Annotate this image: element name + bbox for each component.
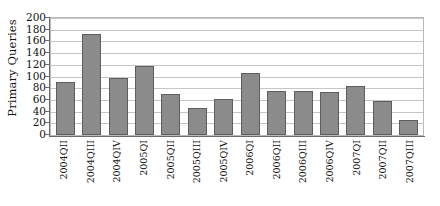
bar[interactable] — [214, 99, 233, 135]
bar-slot — [369, 18, 395, 135]
bar[interactable] — [135, 66, 154, 135]
bar-chart: Primary Queries 020406080100120140160180… — [0, 0, 440, 206]
bar[interactable] — [188, 108, 207, 135]
x-axis-tick-label: 2004QII — [59, 140, 69, 179]
y-axis-line — [49, 17, 50, 137]
bar-slot — [211, 18, 237, 135]
y-axis-title-label: Primary Queries — [5, 19, 19, 116]
bar-slot — [343, 18, 369, 135]
bar-slot — [131, 18, 157, 135]
bar[interactable] — [161, 94, 180, 135]
x-axis-tick-label: 2006QIII — [298, 140, 308, 183]
bar-slot — [237, 18, 263, 135]
x-axis-tick-label: 2006QIV — [325, 140, 335, 183]
bars-container — [51, 18, 423, 135]
bar-slot — [105, 18, 131, 135]
y-axis-tick-label: 20 — [20, 117, 46, 127]
y-axis-tick-label: 80 — [20, 82, 46, 92]
bar[interactable] — [56, 82, 75, 135]
x-tick-slot: 2004QIV — [104, 139, 131, 203]
bar-slot — [78, 18, 104, 135]
y-axis-tickmark — [45, 52, 50, 53]
y-axis-tickmark — [45, 99, 50, 100]
x-tick-slot: 2006QIII — [290, 139, 317, 203]
y-axis-tickmark — [45, 87, 50, 88]
y-axis-tick-label: 140 — [20, 47, 46, 57]
y-axis-tick-label: 0 — [20, 129, 46, 139]
bar-slot — [263, 18, 289, 135]
x-axis-tick-label: 2005QI — [139, 140, 149, 176]
x-tick-slot: 2006QII — [264, 139, 291, 203]
bar-slot — [184, 18, 210, 135]
y-axis-tickmark — [45, 111, 50, 112]
x-axis-tick-labels: 2004QII2004QIII2004QIV2005QI2005QII2005Q… — [50, 139, 424, 203]
y-axis-tick-label: 100 — [20, 71, 46, 81]
bar[interactable] — [320, 92, 339, 135]
bar[interactable] — [241, 73, 260, 135]
x-axis-tick-label: 2005QII — [166, 140, 176, 179]
x-tick-slot: 2006QI — [237, 139, 264, 203]
x-axis-tick-label: 2006QII — [272, 140, 282, 179]
x-axis-tick-label: 2005QIII — [192, 140, 202, 183]
y-axis-tickmark — [45, 29, 50, 30]
y-axis-tick-label: 60 — [20, 94, 46, 104]
bar-slot — [52, 18, 78, 135]
x-tick-slot: 2007QI — [343, 139, 370, 203]
y-axis-tick-label: 120 — [20, 59, 46, 69]
x-tick-slot: 2005QIV — [210, 139, 237, 203]
bar-slot — [316, 18, 342, 135]
x-tick-slot: 2007QIII — [397, 139, 424, 203]
x-axis-tick-label: 2006QI — [245, 140, 255, 176]
y-axis-tick-label: 200 — [20, 12, 46, 22]
x-axis-tick-label: 2007QII — [378, 140, 388, 179]
bar-slot — [290, 18, 316, 135]
y-axis-tickmark — [45, 40, 50, 41]
bar[interactable] — [399, 120, 418, 135]
y-axis-tick-labels: 020406080100120140160180200 — [22, 12, 48, 136]
x-axis-tick-label: 2004QIII — [86, 140, 96, 183]
x-tick-slot: 2004QIII — [78, 139, 105, 203]
bar-slot — [395, 18, 421, 135]
plot-area — [50, 17, 424, 136]
x-tick-slot: 2005QI — [131, 139, 158, 203]
x-tick-slot: 2006QIV — [317, 139, 344, 203]
bar[interactable] — [267, 91, 286, 135]
y-axis-tickmark — [45, 134, 50, 135]
bar[interactable] — [82, 34, 101, 135]
x-tick-slot: 2005QIII — [184, 139, 211, 203]
bar[interactable] — [346, 86, 365, 135]
x-tick-slot: 2004QII — [51, 139, 78, 203]
y-axis-tick-label: 160 — [20, 35, 46, 45]
x-axis-tick-label: 2004QIV — [112, 140, 122, 183]
y-axis-tickmark — [45, 17, 50, 18]
y-axis-tick-label: 40 — [20, 106, 46, 116]
x-tick-slot: 2007QII — [370, 139, 397, 203]
y-axis-tick-label: 180 — [20, 24, 46, 34]
bar[interactable] — [373, 101, 392, 136]
x-axis-line — [49, 136, 425, 137]
x-axis-tick-label: 2005QIV — [219, 140, 229, 183]
y-axis-tickmark — [45, 64, 50, 65]
x-axis-tick-label: 2007QI — [352, 140, 362, 176]
bar-slot — [158, 18, 184, 135]
y-axis-tickmark — [45, 122, 50, 123]
x-axis-tick-label: 2007QIII — [405, 140, 415, 183]
y-axis-tickmark — [45, 76, 50, 77]
bar[interactable] — [294, 91, 313, 135]
bar[interactable] — [109, 78, 128, 135]
x-tick-slot: 2005QII — [157, 139, 184, 203]
